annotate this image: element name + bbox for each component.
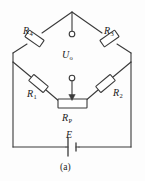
label-e-symbol: E: [66, 129, 72, 140]
label-r1-subscript: 1: [33, 93, 36, 100]
potentiometer-rp-body: [58, 99, 87, 108]
wire-apex-to-r3: [72, 12, 102, 33]
wire-r4-to-left-node: [13, 44, 27, 53]
label-u-symbol: U: [62, 49, 69, 60]
wire-left-node-to-r1: [13, 62, 31, 77]
label-battery-emf: E: [66, 130, 72, 140]
label-r3-subscript: 3: [110, 30, 113, 37]
label-r1: R1: [27, 89, 36, 99]
label-r3: R3: [104, 26, 113, 36]
wire-apex-to-r4: [42, 12, 72, 33]
label-r4-subscript: 4: [29, 30, 32, 37]
top-terminal-icon: [69, 31, 75, 37]
circuit-figure: R4 R3 R1 R2 RP Uo E (a): [0, 0, 145, 181]
label-rp-subscript: P: [68, 117, 72, 124]
wire-r3-to-right-node: [117, 44, 131, 53]
circuit-diagram-svg: [0, 0, 145, 181]
label-r4: R4: [23, 26, 32, 36]
wire-right-node-to-r2: [113, 62, 131, 77]
label-r2: R2: [113, 88, 122, 98]
label-output-voltage: Uo: [62, 50, 72, 60]
label-r2-subscript: 2: [119, 92, 122, 99]
figure-caption: (a): [60, 163, 71, 173]
label-rp: RP: [62, 113, 72, 123]
battery-symbol: [66, 138, 79, 156]
label-u-subscript: o: [70, 54, 73, 61]
wiper-terminal-icon: [69, 75, 75, 81]
